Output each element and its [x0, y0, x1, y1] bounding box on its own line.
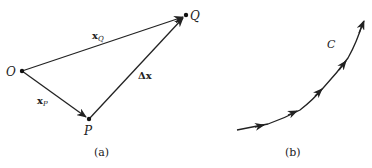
curve-arrow	[339, 61, 346, 70]
label-o: O	[6, 65, 16, 79]
panel-a: O P Q xQ xP Δx (a)	[6, 9, 200, 159]
caption-a: (a)	[94, 146, 109, 159]
curve-c	[237, 22, 363, 130]
label-q: Q	[190, 9, 200, 23]
panel-b: C (b)	[237, 21, 364, 159]
label-xq: xQ	[92, 30, 104, 43]
figure: O P Q xQ xP Δx (a) C (b)	[0, 0, 372, 168]
label-delta-x: Δx	[138, 70, 153, 81]
curve-arrow	[315, 89, 322, 96]
point-p	[87, 117, 91, 121]
vector-xp	[22, 71, 86, 117]
label-xp: xP	[37, 95, 48, 108]
label-c: C	[327, 38, 336, 51]
label-p: P	[83, 124, 93, 138]
curve-arrow	[359, 21, 364, 33]
point-o	[20, 69, 24, 73]
caption-b: (b)	[285, 146, 301, 159]
point-q	[184, 13, 188, 17]
